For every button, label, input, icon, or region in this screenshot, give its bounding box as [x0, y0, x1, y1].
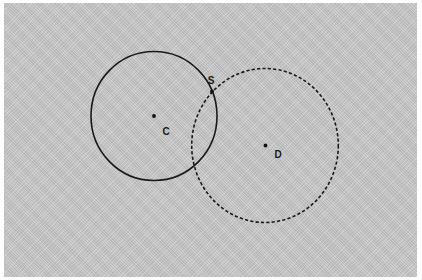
- point-c: [152, 114, 156, 118]
- point-s: [210, 90, 214, 94]
- label-c: C: [162, 126, 169, 137]
- point-d: [264, 144, 268, 148]
- label-s: S: [208, 75, 215, 86]
- two-circles-diagram: C D S: [0, 0, 422, 280]
- label-d: D: [274, 149, 281, 160]
